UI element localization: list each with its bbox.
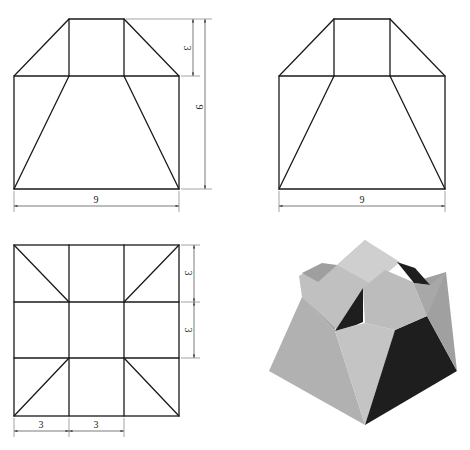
top-dim-y2-label: 3	[183, 328, 194, 333]
top-view: 3 3 3 3	[14, 245, 200, 437]
side-view: 9	[279, 19, 445, 212]
top-dim-x2-label: 3	[94, 419, 99, 430]
front-height-top-label: 3	[182, 46, 193, 51]
orthographic-drawing: 3 9 9 9 3 3	[0, 0, 470, 450]
isometric-solid	[269, 240, 457, 425]
front-height-total-label: 9	[194, 105, 205, 110]
front-width-label: 9	[94, 194, 99, 205]
top-dim-y1-label: 3	[183, 271, 194, 276]
side-width-label: 9	[360, 194, 365, 205]
front-view: 3 9 9	[14, 19, 212, 212]
top-dim-x1-label: 3	[39, 419, 44, 430]
figure-caption-faded	[180, 440, 290, 446]
